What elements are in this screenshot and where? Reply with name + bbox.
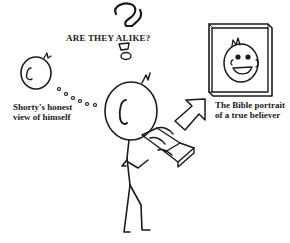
framed-portrait	[209, 24, 272, 96]
right-caption-line-2: of a true believer	[215, 110, 290, 120]
question-mark-icon	[115, 3, 141, 59]
open-bible-icon	[142, 127, 194, 167]
arrow-up-right-icon	[175, 99, 205, 130]
cartoon-title: ARE THEY ALIKE?	[66, 33, 151, 43]
left-caption: Shorty's honest view of himself	[13, 102, 93, 122]
right-caption: The Bible portrait of a true believer	[215, 100, 290, 120]
cartoon-illustration: ARE THEY ALIKE? Shorty's honest view of …	[0, 0, 290, 243]
stick-figure	[105, 73, 157, 232]
left-caption-line-2: view of himself	[13, 112, 93, 122]
right-caption-line-1: The Bible portrait	[215, 100, 290, 110]
small-head-icon	[21, 53, 51, 89]
left-caption-line-1: Shorty's honest	[13, 102, 93, 112]
